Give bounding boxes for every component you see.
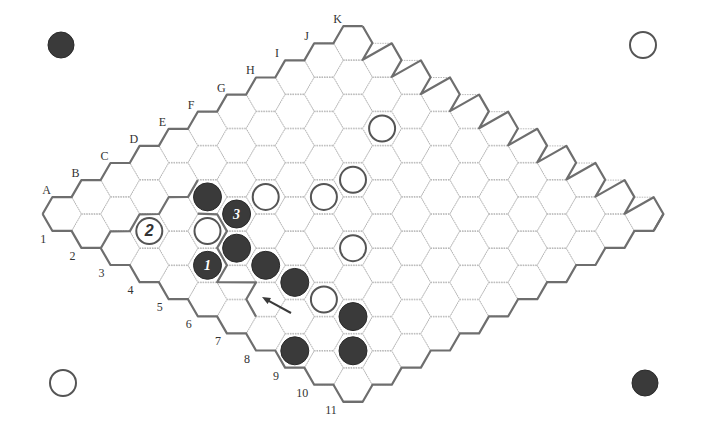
column-label-K: K — [333, 12, 342, 26]
hex-board: ABCDEFGHIJK1234567891011 312 — [0, 0, 706, 432]
column-label-H: H — [246, 63, 255, 77]
corner-top-right-white-stone-icon — [630, 32, 656, 58]
stone-white-B3: 2 — [136, 218, 162, 244]
stone-black-B10 — [339, 337, 367, 365]
row-label-1: 1 — [40, 232, 46, 246]
stone-black-C7 — [281, 268, 309, 296]
white-stone-icon — [369, 116, 395, 142]
row-label-5: 5 — [157, 300, 163, 314]
stone-white-E7 — [340, 235, 366, 261]
row-label-7: 7 — [215, 334, 221, 348]
stone-black-A9 — [281, 337, 309, 365]
move-number: 2 — [144, 222, 154, 239]
stone-black-D4: 3 — [223, 200, 251, 228]
column-label-A: A — [42, 183, 51, 197]
black-stone-icon — [252, 251, 280, 279]
move-number: 1 — [204, 258, 211, 273]
stone-white-G5 — [340, 167, 366, 193]
white-stone-icon — [311, 184, 337, 210]
corner-bottom-right-black-stone-icon — [632, 370, 658, 396]
column-label-G: G — [217, 81, 226, 95]
black-stone-icon — [194, 183, 222, 211]
stone-black-C9 — [339, 303, 367, 331]
stone-black-C5 — [223, 234, 251, 262]
stone-white-I4 — [369, 116, 395, 142]
column-label-D: D — [130, 132, 139, 146]
corner-top-left-black-stone-icon — [48, 32, 74, 58]
row-label-2: 2 — [69, 249, 75, 263]
stone-black-B5: 1 — [194, 251, 222, 279]
stone-black-D3 — [194, 183, 222, 211]
hex-board-diagram: ABCDEFGHIJK1234567891011 312 — [0, 0, 706, 432]
column-label-C: C — [101, 149, 109, 163]
column-label-B: B — [71, 166, 79, 180]
white-stone-icon — [195, 218, 221, 244]
stone-white-C8 — [311, 287, 337, 313]
move-number: 3 — [232, 207, 240, 222]
stone-black-C6 — [252, 251, 280, 279]
stone-white-E4 — [253, 184, 279, 210]
row-label-9: 9 — [273, 369, 279, 383]
row-label-8: 8 — [244, 352, 250, 366]
black-stone-icon — [281, 268, 309, 296]
white-stone-icon — [340, 235, 366, 261]
white-stone-icon — [340, 167, 366, 193]
row-label-4: 4 — [128, 283, 134, 297]
column-label-F: F — [188, 98, 195, 112]
row-label-3: 3 — [99, 266, 105, 280]
row-label-10: 10 — [296, 386, 308, 400]
white-stone-icon — [311, 287, 337, 313]
row-label-11: 11 — [325, 403, 337, 417]
black-stone-icon — [223, 234, 251, 262]
row-label-6: 6 — [186, 317, 192, 331]
stone-white-F5 — [311, 184, 337, 210]
white-stone-icon — [253, 184, 279, 210]
black-stone-icon — [339, 303, 367, 331]
column-label-E: E — [159, 115, 166, 129]
column-label-J: J — [304, 29, 309, 43]
black-stone-icon — [339, 337, 367, 365]
black-stone-icon — [281, 337, 309, 365]
corner-bottom-left-white-stone-icon — [50, 370, 76, 396]
stone-white-C4 — [195, 218, 221, 244]
column-label-I: I — [275, 46, 279, 60]
